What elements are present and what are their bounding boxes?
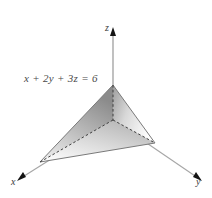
z-axis-label: z — [105, 22, 109, 33]
plane-figure: x + 2y + 3z = 6 x y z — [0, 0, 212, 198]
x-axis-label: x — [11, 176, 15, 187]
plane-triangle — [40, 85, 155, 162]
x-axis-arrowhead — [17, 172, 26, 181]
y-axis-label: y — [196, 176, 200, 187]
plane-equation-label: x + 2y + 3z = 6 — [24, 72, 98, 84]
z-axis-arrowhead — [110, 27, 116, 36]
